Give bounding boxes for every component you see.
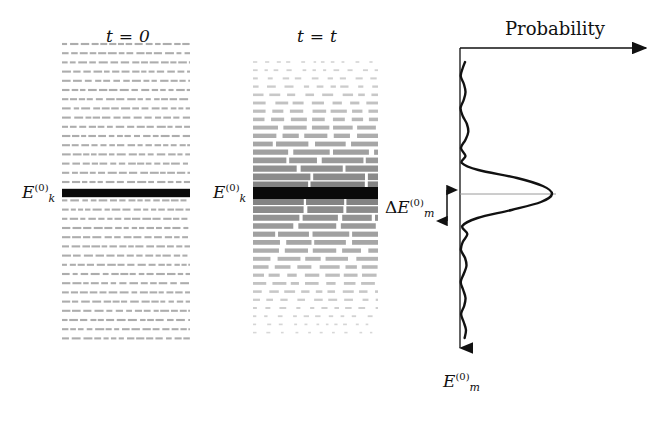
energy-axis-superscript: (0): [455, 371, 469, 382]
figure-root: t = 0 E(0)k t = t E(0)k Probability ΔE(0…: [0, 0, 669, 422]
panel-title-t-zero: t = 0: [106, 26, 150, 46]
delta-symbol: Δ: [385, 197, 397, 217]
width-label-superscript: (0): [410, 197, 424, 208]
middle-level-superscript: (0): [225, 182, 239, 193]
energy-axis-subscript: m: [470, 381, 480, 394]
energy-axis-E: E: [443, 371, 455, 391]
middle-level-E: E: [213, 182, 225, 202]
probability-axis-title: Probability: [505, 18, 605, 39]
middle-panel-levels: [253, 62, 378, 333]
left-level-E: E: [22, 182, 34, 202]
middle-level-label-Ek0: E(0)k: [213, 182, 246, 202]
left-panel-levels: [62, 44, 190, 338]
middle-highlighted-level-Ek0: [253, 187, 378, 199]
panel-title-t-t: t = t: [297, 26, 337, 46]
left-level-subscript: k: [49, 192, 56, 205]
probability-distribution-plot: [0, 0, 669, 422]
left-level-label-Ek0: E(0)k: [22, 182, 55, 202]
width-label-E: E: [397, 197, 409, 217]
width-label-subscript: m: [424, 207, 434, 220]
left-highlighted-level-Ek0: [62, 189, 190, 197]
energy-width-label-delta-Em0: ΔE(0)m: [385, 197, 434, 217]
energy-axis-label-Em0: E(0)m: [443, 371, 480, 391]
energy-level-ladders: [0, 0, 669, 422]
probability-curve: [461, 62, 552, 338]
left-level-superscript: (0): [34, 182, 48, 193]
middle-level-subscript: k: [240, 192, 247, 205]
